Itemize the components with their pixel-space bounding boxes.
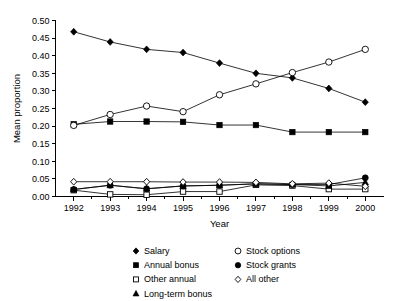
y-tick-label: 0.05	[32, 174, 50, 184]
legend-item-other-annual: Other annual	[134, 274, 197, 284]
data-point-filled-square-marker	[107, 119, 112, 124]
data-point-filled-triangle-marker	[133, 290, 139, 295]
data-point-filled-diamond-marker	[326, 85, 332, 92]
x-tick-label: 1998	[282, 203, 302, 213]
legend-item-stock-grants: Stock grants	[235, 260, 296, 270]
data-point-filled-circle-marker	[235, 262, 241, 268]
legend-label: Annual bonus	[144, 260, 200, 270]
data-point-filled-square-marker	[363, 129, 368, 134]
y-tick-label: 0.30	[32, 86, 50, 96]
data-point-open-circle-marker	[253, 81, 259, 87]
axis-frame	[56, 21, 384, 197]
data-point-open-square-marker	[180, 189, 185, 194]
y-tick-label: 0.15	[32, 139, 50, 149]
data-point-filled-square-marker	[326, 129, 331, 134]
x-tick-label: 1995	[173, 203, 193, 213]
legend: SalaryAnnual bonusOther annualLong-term …	[133, 246, 300, 299]
data-point-open-square-marker	[107, 192, 112, 197]
data-point-open-circle-marker	[362, 46, 368, 52]
data-point-open-square-marker	[144, 192, 149, 197]
data-point-open-circle-marker	[143, 103, 149, 109]
y-tick-label: 0.35	[32, 69, 50, 79]
y-axis: 0.000.050.100.150.200.250.300.350.400.45…	[32, 16, 56, 202]
x-tick-label: 1996	[209, 203, 229, 213]
data-point-open-circle-marker	[216, 92, 222, 98]
x-tick-label: 1993	[100, 203, 120, 213]
legend-label: Stock options	[246, 246, 301, 256]
data-point-open-square-marker	[134, 277, 139, 282]
legend-item-salary: Salary	[133, 246, 170, 256]
y-tick-label: 0.20	[32, 121, 50, 131]
x-tick-label: 1992	[64, 203, 84, 213]
legend-item-annual-bonus: Annual bonus	[134, 260, 200, 270]
y-tick-label: 0.00	[32, 192, 50, 202]
data-point-filled-square-marker	[217, 122, 222, 127]
legend-label: All other	[246, 274, 279, 284]
data-point-filled-diamond-marker	[71, 28, 77, 35]
data-point-filled-diamond-marker	[180, 49, 186, 56]
x-axis: 199219931994199519961997199819992000	[64, 197, 376, 213]
y-tick-label: 0.45	[32, 33, 50, 43]
legend-label: Other annual	[144, 274, 196, 284]
data-point-filled-circle-marker	[144, 186, 150, 192]
data-point-open-square-marker	[217, 189, 222, 194]
data-point-filled-circle-marker	[71, 186, 77, 192]
y-axis-title: Mean proportion	[11, 74, 22, 143]
data-point-open-circle-marker	[235, 248, 241, 254]
data-point-filled-diamond-marker	[133, 248, 139, 254]
data-point-filled-square-marker	[290, 129, 295, 134]
data-point-open-diamond-marker	[235, 276, 241, 282]
x-tick-label: 1994	[137, 203, 157, 213]
data-point-open-diamond-marker	[71, 178, 77, 185]
legend-item-stock-options: Stock options	[235, 246, 300, 256]
data-point-filled-square-marker	[180, 119, 185, 124]
y-tick-label: 0.50	[32, 16, 50, 26]
data-point-filled-diamond-marker	[253, 70, 259, 77]
y-tick-label: 0.25	[32, 104, 50, 114]
x-axis-title: Year	[210, 218, 229, 229]
x-tick-label: 2000	[355, 203, 375, 213]
legend-label: Stock grants	[246, 260, 297, 270]
legend-label: Salary	[144, 246, 170, 256]
data-point-open-circle-marker	[71, 122, 77, 128]
legend-item-long-term-bonus: Long-term bonus	[133, 289, 212, 299]
chart-container: 0.000.050.100.150.200.250.300.350.400.45…	[0, 0, 404, 301]
series-annual-bonus	[71, 119, 368, 135]
data-point-open-circle-marker	[107, 111, 113, 117]
x-tick-label: 1999	[319, 203, 339, 213]
legend-item-all-other: All other	[235, 274, 279, 284]
data-point-filled-diamond-marker	[216, 60, 222, 67]
data-point-open-diamond-marker	[144, 178, 150, 185]
line-chart: 0.000.050.100.150.200.250.300.350.400.45…	[0, 0, 404, 301]
data-point-open-circle-marker	[180, 108, 186, 114]
data-point-open-circle-marker	[289, 69, 295, 75]
legend-label: Long-term bonus	[144, 289, 213, 299]
data-point-filled-square-marker	[144, 119, 149, 124]
data-point-filled-diamond-marker	[107, 39, 113, 46]
data-point-filled-diamond-marker	[144, 46, 150, 53]
data-point-filled-diamond-marker	[362, 99, 368, 106]
data-point-open-circle-marker	[326, 59, 332, 65]
data-point-filled-square-marker	[134, 263, 139, 268]
y-tick-label: 0.40	[32, 51, 50, 61]
data-point-filled-circle-marker	[362, 175, 368, 181]
data-point-filled-square-marker	[253, 122, 258, 127]
x-tick-label: 1997	[246, 203, 266, 213]
y-tick-label: 0.10	[32, 157, 50, 167]
